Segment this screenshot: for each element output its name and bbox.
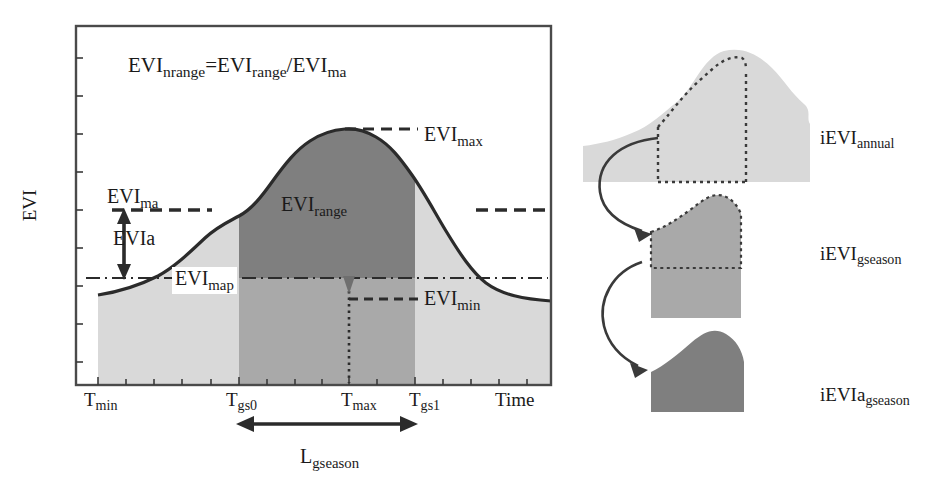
t-min-sub: min xyxy=(96,397,118,413)
t-min-tick-label: Tmin xyxy=(84,390,117,413)
formula-lhs-base: EVI xyxy=(128,53,163,77)
evia-base: EVIa xyxy=(113,227,155,249)
formula-num-base: EVI xyxy=(217,53,252,77)
evi-range-sub: range xyxy=(314,203,347,219)
arrow-gseason-to-ievia xyxy=(603,262,642,366)
evi-phenology-diagram: EVInrange=EVIrange/EVIma EVImax EVIma EV… xyxy=(0,0,945,484)
formula-lhs-sub: nrange xyxy=(163,63,205,80)
t-gs0-base: T xyxy=(226,389,238,410)
arrow-annual-to-gseason-head xyxy=(634,228,652,242)
evi-range-base: EVI xyxy=(281,193,314,215)
evi-map-base: EVI xyxy=(175,267,208,289)
t-max-base: T xyxy=(341,389,353,410)
ievi-gseason-base: iEVI xyxy=(820,243,857,264)
arrow-gseason-to-ievia-head xyxy=(630,363,648,378)
evi-range-label: EVIrange xyxy=(281,194,347,219)
evi-max-label: EVImax xyxy=(424,124,483,149)
evi-ma-base: EVI xyxy=(107,185,140,207)
ievia-gseason-label: iEVIagseason xyxy=(820,385,910,408)
t-gs1-base: T xyxy=(409,389,421,410)
ievi-gseason-label: iEVIgseason xyxy=(820,244,901,267)
ievi-annual-shape xyxy=(583,50,810,182)
evi-map-label: EVImap xyxy=(172,267,237,294)
formula-den-sub: ma xyxy=(327,63,346,80)
lgseason-sub: gseason xyxy=(312,455,359,471)
lgseason-arrow xyxy=(236,416,418,432)
evi-min-base: EVI xyxy=(424,287,457,309)
evi-ma-label: EVIma xyxy=(107,186,158,211)
t-gs1-tick-label: Tgs1 xyxy=(409,390,440,413)
formula-num-sub: range xyxy=(252,63,287,80)
ievi-gseason-sub: gseason xyxy=(857,251,901,267)
ievia-gseason-sub: gseason xyxy=(865,392,909,408)
evi-ma-sub: ma xyxy=(140,195,158,211)
evi-min-label: EVImin xyxy=(424,288,480,313)
t-min-base: T xyxy=(84,389,96,410)
t-max-tick-label: Tmax xyxy=(341,390,377,413)
ievi-gseason-shape xyxy=(651,195,741,318)
evi-max-base: EVI xyxy=(424,123,457,145)
time-axis-label: Time xyxy=(495,390,534,409)
lgseason-base: L xyxy=(300,445,312,467)
ievi-annual-base: iEVI xyxy=(820,127,857,148)
lgseason-label: Lgseason xyxy=(300,446,359,471)
y-axis-label: EVI xyxy=(20,176,39,236)
t-max-sub: max xyxy=(353,397,377,413)
t-gs0-sub: gs0 xyxy=(238,397,258,413)
ievi-annual-sub: annual xyxy=(857,135,894,151)
region-medium-below-evimap xyxy=(239,278,415,385)
evi-max-sub: max xyxy=(457,133,482,149)
ievia-gseason-shape xyxy=(651,331,744,412)
evi-min-sub: min xyxy=(457,297,480,313)
ievia-gseason-base: iEVIa xyxy=(820,384,865,405)
formula-den-base: EVI xyxy=(292,53,327,77)
formula-equals: = xyxy=(205,53,217,77)
evia-label: EVIa xyxy=(113,228,155,248)
t-gs0-tick-label: Tgs0 xyxy=(226,390,257,413)
formula-label: EVInrange=EVIrange/EVIma xyxy=(128,55,346,80)
ievi-annual-label: iEVIannual xyxy=(820,128,894,151)
evi-map-sub: map xyxy=(208,277,233,293)
t-gs1-sub: gs1 xyxy=(421,397,441,413)
